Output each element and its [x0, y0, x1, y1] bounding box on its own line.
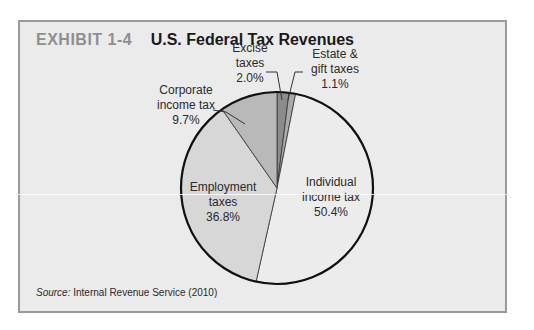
label-individual: Individual income tax 50.4% — [295, 175, 367, 220]
label-estate-line1: Estate & — [303, 47, 367, 62]
label-employment-line2: taxes — [187, 195, 259, 210]
label-excise-line1: Excise — [228, 41, 272, 56]
label-estate-pct: 1.1% — [303, 77, 367, 92]
label-corporate: Corporate income tax 9.7% — [152, 83, 220, 128]
label-excise-line2: taxes — [228, 56, 272, 71]
label-individual-line1: Individual — [295, 175, 367, 190]
label-estate-line2: gift taxes — [303, 62, 367, 77]
label-employment-pct: 36.8% — [187, 210, 259, 225]
label-individual-line2: income tax — [295, 190, 367, 205]
label-employment-line1: Employment — [187, 180, 259, 195]
label-corporate-pct: 9.7% — [152, 113, 220, 128]
label-individual-pct: 50.4% — [295, 205, 367, 220]
scan-artifact-line — [0, 194, 534, 195]
label-employment: Employment taxes 36.8% — [187, 180, 259, 225]
label-estate: Estate & gift taxes 1.1% — [303, 47, 367, 92]
label-excise-pct: 2.0% — [228, 71, 272, 86]
label-corporate-line1: Corporate — [152, 83, 220, 98]
label-excise: Excise taxes 2.0% — [228, 41, 272, 86]
label-corporate-line2: income tax — [152, 98, 220, 113]
